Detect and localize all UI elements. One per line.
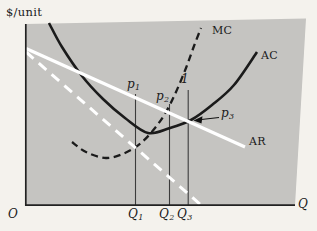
mc-curve-label-text: MC	[212, 24, 232, 37]
origin-label: O	[8, 208, 18, 220]
figure-canvas: $/unit O Q MC AC AR p1 p2 p3 1 Q1 Q2 Q3	[0, 0, 317, 231]
p2-subscript: 2	[164, 95, 169, 104]
y-axis-label: $/unit	[6, 7, 42, 19]
p2-base: p	[156, 89, 164, 103]
x-tick-q3: Q3	[177, 208, 192, 220]
price-label-p2: p2	[156, 90, 169, 102]
p3-base: p	[221, 106, 229, 120]
p1-subscript: 1	[135, 83, 140, 92]
price-label-p3: p3	[221, 107, 234, 119]
q1-base: Q	[128, 207, 138, 221]
ac-curve-label: AC	[261, 50, 278, 61]
ac-curve-label-text: AC	[261, 49, 278, 62]
q3-subscript: 3	[187, 213, 192, 222]
p1-base: p	[127, 77, 135, 91]
mc-curve-label: MC	[212, 25, 232, 36]
p3-subscript: 3	[229, 112, 234, 121]
price-label-p1: p1	[127, 78, 140, 90]
q1-subscript: 1	[138, 213, 143, 222]
q2-subscript: 2	[169, 213, 174, 222]
x-axis-label: Q	[298, 198, 308, 210]
economics-plot	[0, 0, 317, 231]
ar-curve-label-text: AR	[249, 135, 266, 148]
q3-base: Q	[177, 207, 187, 221]
x-tick-q2: Q2	[159, 208, 174, 220]
q2-base: Q	[159, 207, 169, 221]
marker-1-label: 1	[181, 73, 189, 85]
ar-curve-label: AR	[249, 136, 266, 147]
x-tick-q1: Q1	[128, 208, 143, 220]
